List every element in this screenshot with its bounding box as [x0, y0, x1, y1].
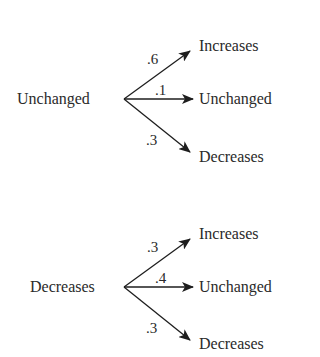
branch-probability: .3 [146, 133, 157, 148]
outcome-node: Increases [199, 226, 259, 242]
outcome-node: Unchanged [199, 91, 272, 107]
root-node: Unchanged [17, 91, 90, 107]
outcome-node: Decreases [199, 336, 264, 352]
branch-probability: .6 [147, 52, 158, 67]
tree-2-arrows [124, 239, 193, 340]
branch-probability: .3 [146, 321, 157, 336]
tree-arrows [0, 0, 320, 357]
branch-probability: .4 [155, 271, 166, 286]
outcome-node: Decreases [199, 149, 264, 165]
outcome-node: Unchanged [199, 279, 272, 295]
tree-1-arrows [124, 51, 193, 152]
branch-probability: .1 [155, 83, 166, 98]
branch-probability: .3 [147, 240, 158, 255]
root-node: Decreases [30, 279, 95, 295]
outcome-node: Increases [199, 38, 259, 54]
